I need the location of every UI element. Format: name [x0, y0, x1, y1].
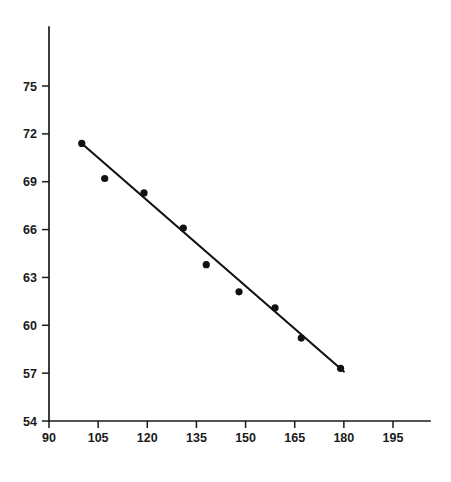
data-point [78, 140, 85, 147]
data-point [271, 304, 278, 311]
y-tick-label: 75 [23, 80, 37, 94]
data-point [235, 288, 242, 295]
y-tick-label: 63 [23, 271, 37, 285]
data-point [337, 365, 344, 372]
y-tick-label: 66 [23, 223, 37, 237]
y-tick-label: 57 [23, 367, 37, 381]
data-point [101, 175, 108, 182]
chart-canvas: 545760636669727590105120135150165180195 [0, 0, 451, 482]
x-tick-label: 165 [284, 431, 305, 445]
y-tick-label: 69 [23, 175, 37, 189]
y-tick-label: 72 [23, 127, 37, 141]
x-tick-label: 135 [186, 431, 207, 445]
x-tick-label: 195 [383, 431, 404, 445]
scatter-plot-figure: 545760636669727590105120135150165180195 [0, 0, 451, 482]
x-tick-label: 150 [235, 431, 256, 445]
data-point [140, 189, 147, 196]
x-tick-label: 105 [88, 431, 109, 445]
x-tick-label: 180 [333, 431, 354, 445]
y-tick-label: 54 [23, 415, 37, 429]
y-tick-label: 60 [23, 319, 37, 333]
data-point [203, 261, 210, 268]
data-point [298, 334, 305, 341]
x-tick-label: 90 [42, 431, 56, 445]
x-tick-label: 120 [137, 431, 158, 445]
data-point [180, 224, 187, 231]
